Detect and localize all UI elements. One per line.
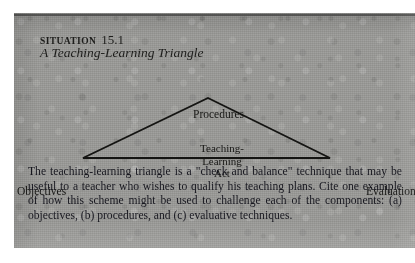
- teaching-learning-triangle-diagram: Procedures Objectives Evaluation Teachin…: [14, 58, 415, 170]
- triangle-apex-label: Procedures: [193, 108, 244, 120]
- body-paragraph: The teaching-learning triangle is a "che…: [28, 165, 402, 223]
- body-text-block: The teaching-learning triangle is a "che…: [28, 165, 402, 223]
- box-top-rule: [14, 14, 415, 16]
- scanned-page: SITUATION15.1 A Teaching-Learning Triang…: [14, 13, 415, 248]
- inner-label-line-1: Teaching-: [177, 142, 267, 155]
